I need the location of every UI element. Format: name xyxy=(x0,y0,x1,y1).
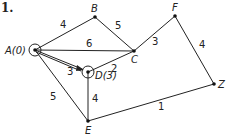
node-label-f: F xyxy=(172,2,178,13)
edge-a-c xyxy=(35,50,134,51)
node-label-e: E xyxy=(85,125,92,136)
node-label-a: A(0) xyxy=(4,45,26,56)
node-z xyxy=(212,82,216,86)
weight-d-c: 2 xyxy=(111,63,117,74)
node-e xyxy=(86,119,90,123)
weight-f-z: 4 xyxy=(199,39,205,50)
weight-b-c: 5 xyxy=(115,20,121,31)
node-label-b: B xyxy=(91,3,98,14)
graph-diagram: 1. A(0) B C D(3) E F Z 4 5 6 3 4 3 2 xyxy=(0,0,226,138)
node-label-c: C xyxy=(131,54,138,65)
node-label-z: Z xyxy=(217,79,226,90)
weight-a-b: 4 xyxy=(60,19,66,30)
node-c xyxy=(132,49,136,53)
weight-e-z: 1 xyxy=(158,101,164,112)
node-a xyxy=(33,48,37,52)
weight-a-e: 5 xyxy=(50,91,56,102)
node-b xyxy=(93,15,97,19)
edges xyxy=(35,16,214,121)
weight-a-d: 3 xyxy=(67,66,73,77)
edge-e-z xyxy=(88,84,214,121)
edge-f-z xyxy=(175,16,214,84)
weight-a-c: 6 xyxy=(86,38,92,49)
problem-number: 1. xyxy=(1,1,14,15)
node-d xyxy=(86,70,90,74)
weight-d-e: 4 xyxy=(92,93,98,104)
weight-c-f: 3 xyxy=(152,36,158,47)
node-dots xyxy=(33,14,216,123)
node-f xyxy=(173,14,177,18)
edge-a-d-shadow xyxy=(36,52,81,71)
